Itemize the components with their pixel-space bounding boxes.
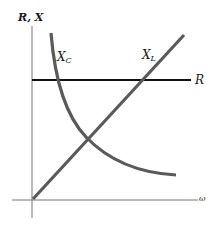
reactance-vs-frequency-diagram: R, X XC XL R ω	[0, 0, 218, 230]
inductive-reactance-label-main: X	[142, 48, 151, 62]
inductive-reactance-label: XL	[142, 49, 156, 63]
capacitive-reactance-label-sub: C	[66, 56, 72, 65]
x-axis-label: ω	[199, 195, 206, 203]
y-axis-label: R, X	[18, 12, 43, 23]
diagram-graphics	[0, 0, 218, 230]
resistance-label: R	[195, 74, 204, 86]
capacitive-reactance-label-main: X	[57, 50, 66, 64]
capacitive-reactance-label: XC	[57, 51, 72, 65]
inductive-reactance-label-sub: L	[151, 54, 156, 63]
